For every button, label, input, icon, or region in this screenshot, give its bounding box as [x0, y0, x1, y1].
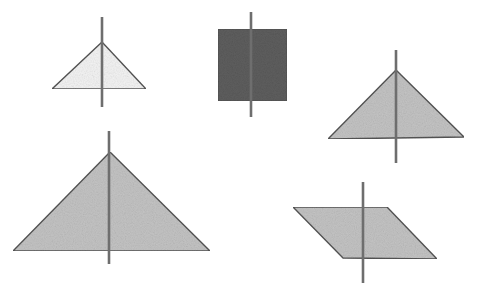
small-triangle-shape [52, 42, 146, 89]
large-triangle-shape [13, 152, 210, 251]
shapes-layer [13, 12, 464, 283]
right-triangle [328, 50, 464, 163]
parallelogram [293, 182, 437, 283]
dark-square-shape [218, 29, 287, 101]
dark-square [218, 12, 287, 117]
small-triangle [52, 17, 146, 107]
diagram-canvas [0, 0, 477, 296]
parallelogram-shape [293, 207, 437, 259]
large-triangle [13, 131, 210, 264]
